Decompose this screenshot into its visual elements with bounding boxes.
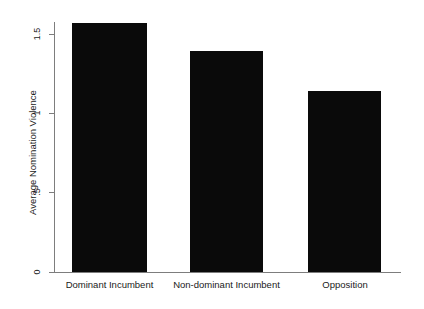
chart-root: 1.5 1 .5 0 Average Nomination Violence D… bbox=[0, 0, 424, 309]
y-tick-label-0-wrap: 0 bbox=[28, 266, 46, 278]
y-tick-label-1.5: 1.5 bbox=[31, 25, 43, 43]
x-axis-line bbox=[54, 272, 401, 273]
y-tick-mark-1 bbox=[49, 113, 54, 114]
y-axis-title: Average Nomination Violence bbox=[27, 58, 38, 248]
plot-area: 1.5 1 .5 0 Average Nomination Violence D… bbox=[0, 0, 424, 309]
y-tick-label-1.5-wrap: 1.5 bbox=[28, 28, 46, 40]
y-tick-mark-0.5 bbox=[49, 192, 54, 193]
x-category-label-1: Non-dominant Incumbent bbox=[160, 279, 293, 290]
bar-dominant-incumbent bbox=[72, 23, 147, 272]
bar-opposition bbox=[308, 91, 381, 272]
y-tick-label-0: 0 bbox=[31, 263, 43, 281]
y-tick-mark-0 bbox=[49, 272, 54, 273]
x-category-label-2: Opposition bbox=[308, 279, 382, 290]
y-axis-line bbox=[54, 22, 55, 273]
x-category-label-0: Dominant Incumbent bbox=[47, 279, 172, 290]
bar-non-dominant-incumbent bbox=[190, 51, 263, 272]
y-tick-mark-1.5 bbox=[49, 34, 54, 35]
